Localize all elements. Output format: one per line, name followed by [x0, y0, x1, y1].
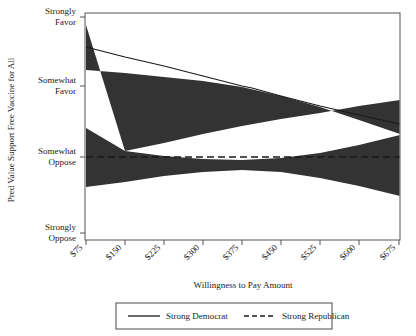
- y-tick-label-strongly-favor-l1: Strongly: [45, 6, 77, 16]
- y-tick-label-somewhat-oppose-l1: Somewhat: [38, 146, 76, 156]
- chart-svg: Pred Value Support Free Vaccine for All …: [0, 0, 416, 336]
- x-tick-label-3: $225: [143, 242, 163, 262]
- legend-label-republican: Strong Republican: [282, 311, 350, 321]
- y-tick-label-strongly-oppose-l2: Oppose: [49, 233, 77, 243]
- x-tick-label-9: $675: [378, 242, 398, 262]
- x-tick-label-1: $75: [68, 242, 85, 259]
- y-tick-label-somewhat-favor-l2: Favor: [55, 86, 76, 96]
- x-tick-label-8: $600: [338, 242, 358, 262]
- chart-figure: Pred Value Support Free Vaccine for All …: [0, 0, 416, 336]
- legend-label-democrat: Strong Democrat: [166, 311, 228, 321]
- y-tick-label-strongly-favor-l2: Favor: [55, 17, 76, 27]
- y-tick-labels: Strongly Favor Somewhat Favor Somewhat O…: [38, 6, 76, 243]
- y-tick-label-somewhat-oppose-l2: Oppose: [49, 157, 77, 167]
- y-tick-label-strongly-oppose-l1: Strongly: [45, 222, 77, 232]
- x-tick-label-7: $525: [299, 242, 319, 262]
- x-tick-labels: $75 $150 $225 $300 $375 $450 $525 $600 $…: [68, 242, 398, 262]
- x-axis-title: Willingness to Pay Amount: [194, 280, 293, 290]
- x-tick-label-6: $450: [260, 242, 280, 262]
- legend: Strong Democrat Strong Republican: [116, 303, 350, 329]
- y-axis-ticks: [80, 17, 85, 233]
- x-tick-label-2: $150: [104, 242, 124, 262]
- x-tick-label-5: $375: [221, 242, 241, 262]
- y-tick-label-somewhat-favor-l1: Somewhat: [38, 75, 76, 85]
- y-axis-title: Pred Value Support Free Vaccine for All: [6, 57, 16, 202]
- x-tick-label-4: $300: [182, 242, 202, 262]
